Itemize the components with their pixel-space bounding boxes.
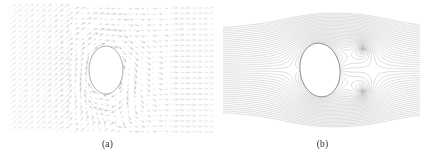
panel-b-caption: (b): [215, 139, 430, 149]
figure-root: (a) (b): [0, 0, 430, 161]
vector-field-plot: [0, 0, 215, 140]
panel-a-caption: (a): [0, 139, 215, 149]
panel-b: [215, 0, 430, 140]
contour-field-plot: [215, 0, 430, 140]
panel-a: [0, 0, 215, 140]
